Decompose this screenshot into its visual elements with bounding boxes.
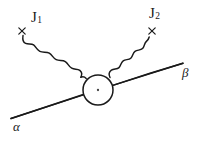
label-incoming-state-alpha: α — [13, 120, 20, 133]
cross-marker-left — [19, 28, 25, 34]
fermion-line-exit-stub — [113, 63, 183, 85]
fermion-line-entry-stub — [11, 95, 83, 119]
label-j2-subscript: 2 — [155, 11, 160, 21]
photon-line-right — [109, 37, 149, 78]
feynman-diagram-canvas: J1 J2 α β — [0, 0, 201, 141]
label-current-j1: J1 — [31, 10, 42, 26]
label-j2-base: J — [149, 5, 155, 21]
label-outgoing-state-beta: β — [182, 66, 188, 79]
label-j1-subscript: 1 — [37, 15, 42, 25]
photon-line-left — [23, 36, 86, 79]
vertex-center-dot — [97, 89, 99, 91]
label-j1-base: J — [31, 9, 37, 25]
cross-marker-right — [149, 28, 155, 34]
label-current-j2: J2 — [149, 6, 160, 22]
